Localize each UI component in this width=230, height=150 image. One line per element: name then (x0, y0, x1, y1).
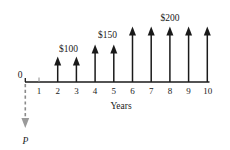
cash-flow-timeline-svg: 1 2 3 4 5 6 7 8 9 10 0 P Years $100 $150… (0, 0, 230, 150)
cash-flow-arrow-year-6 (129, 27, 136, 83)
cash-flow-arrow-year-8 (166, 27, 173, 83)
tick-label-9: 9 (186, 86, 191, 96)
tick-label-1: 1 (37, 86, 42, 96)
tick-label-10: 10 (203, 86, 213, 96)
cash-flow-arrow-year-9 (185, 27, 192, 83)
cash-flow-arrow-year-2 (54, 57, 61, 83)
cash-flow-diagram: 1 2 3 4 5 6 7 8 9 10 0 P Years $100 $150… (0, 0, 230, 150)
cash-flow-arrow-year-3 (73, 57, 80, 83)
tick-label-3: 3 (74, 86, 79, 96)
tick-label-6: 6 (130, 86, 135, 96)
cash-flow-arrow-year-4 (92, 45, 99, 83)
amount-label-200: $200 (161, 13, 180, 23)
tick-label-2: 2 (55, 86, 60, 96)
tick-label-8: 8 (168, 86, 173, 96)
amount-label-150: $150 (98, 30, 117, 40)
tick-label-4: 4 (93, 86, 98, 96)
axis-title-years: Years (110, 101, 132, 111)
cash-flow-arrow-year-10 (204, 27, 211, 83)
tick-label-5: 5 (112, 86, 117, 96)
tick-label-7: 7 (149, 86, 154, 96)
amount-label-100: $100 (59, 44, 78, 54)
origin-label: 0 (18, 70, 23, 80)
cash-flow-arrow-year-7 (148, 27, 155, 83)
present-worth-label: P (21, 136, 28, 146)
cash-flow-arrow-year-5 (110, 45, 117, 83)
present-worth-arrow (21, 84, 29, 128)
